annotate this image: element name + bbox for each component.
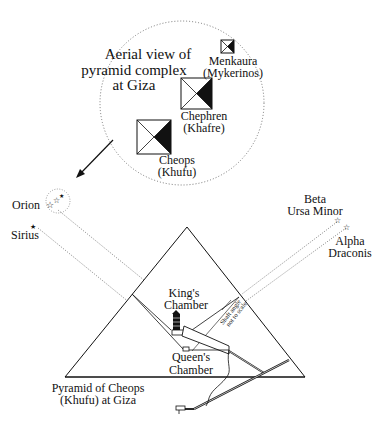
aerial-title-line2: pyramid complex	[81, 62, 187, 78]
aerial-title-line3: at Giza	[113, 77, 156, 93]
beta-label-line2: Ursa Minor	[287, 204, 343, 218]
aerial-title-line1: Aerial view of	[105, 46, 192, 62]
kings-chamber-label-line2: Chamber	[164, 298, 208, 312]
cheops-alt-label: (Khufu)	[158, 165, 197, 179]
alpha-sight-line	[246, 228, 346, 301]
chephren-alt-label: (Khafre)	[183, 121, 224, 135]
queens-chamber-label-line2: Chamber	[169, 363, 213, 377]
orion-label: Orion	[12, 198, 40, 212]
menkaura-alt-label: (Mykerinos)	[203, 66, 263, 80]
menkaura-square-icon	[221, 40, 234, 53]
subterranean-chamber-icon	[176, 406, 185, 414]
queens-chamber-label-line1: Queen's	[172, 350, 210, 364]
giza-diagram: Aerial view of pyramid complex at Giza M…	[0, 0, 375, 424]
arrow-line	[80, 140, 113, 174]
caption-line2: (Khufu) at Giza	[60, 393, 137, 407]
chephren-square-icon	[181, 78, 212, 109]
star-icon: ☆	[343, 223, 350, 232]
cheops-square-icon	[137, 120, 171, 154]
star-icon: ★	[59, 192, 64, 199]
beta-sight-line	[242, 222, 337, 294]
sirius-label: Sirius	[11, 228, 39, 242]
alpha-label-line2: Draconis	[328, 246, 372, 260]
